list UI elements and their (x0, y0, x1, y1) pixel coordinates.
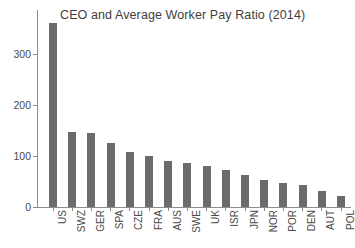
x-axis-label-slot: SWE (177, 210, 196, 248)
x-axis-label-slot: AUS (158, 210, 177, 248)
x-axis-label-pol: POL (346, 210, 355, 230)
bar-cze[interactable] (126, 152, 134, 207)
x-axis-label-slot: NOR (254, 210, 273, 248)
bar-jpn[interactable] (241, 175, 249, 207)
bar-pol[interactable] (337, 196, 345, 207)
bar-den[interactable] (299, 185, 307, 207)
x-axis-label-slot: POL (331, 210, 350, 248)
x-axis-label-slot: UK (197, 210, 216, 248)
x-axis-label-slot: POR (273, 210, 292, 248)
x-axis-labels: USSWZGERSPACZEFRAAUSSWEUKISRJPNNORPORDEN… (37, 210, 351, 248)
bar-isr[interactable] (222, 170, 230, 207)
x-axis-label-slot: SPA (101, 210, 120, 248)
bar-fra[interactable] (145, 156, 153, 207)
x-axis-label-slot: AUT (312, 210, 331, 248)
y-axis-tick-label: 100 (13, 150, 31, 162)
x-axis-label-slot: JPN (235, 210, 254, 248)
bar-us[interactable] (49, 23, 57, 207)
bar-spa[interactable] (107, 143, 115, 207)
y-axis-tick-label: 200 (13, 99, 31, 111)
plot-area: 0100200300 (37, 10, 351, 208)
x-axis-label-slot: US (43, 210, 62, 248)
bar-nor[interactable] (260, 180, 268, 207)
bar-swz[interactable] (68, 132, 76, 207)
x-axis-label-slot: GER (81, 210, 100, 248)
bars-layer (37, 10, 351, 208)
y-axis-tick-label: 0 (25, 201, 31, 213)
bar-ger[interactable] (87, 133, 95, 207)
bar-swe[interactable] (183, 163, 191, 207)
bar-uk[interactable] (203, 166, 211, 207)
x-axis-label-slot: ISR (216, 210, 235, 248)
x-axis-label-slot: FRA (139, 210, 158, 248)
x-axis-label-slot: CZE (120, 210, 139, 248)
bar-aus[interactable] (164, 161, 172, 207)
bar-aut[interactable] (318, 191, 326, 207)
bar-por[interactable] (279, 183, 287, 207)
x-axis-label-slot: DEN (293, 210, 312, 248)
chart-container: CEO and Average Worker Pay Ratio (2014) … (0, 0, 355, 248)
y-axis-tick-label: 300 (13, 48, 31, 60)
x-axis-label-slot: SWZ (62, 210, 81, 248)
